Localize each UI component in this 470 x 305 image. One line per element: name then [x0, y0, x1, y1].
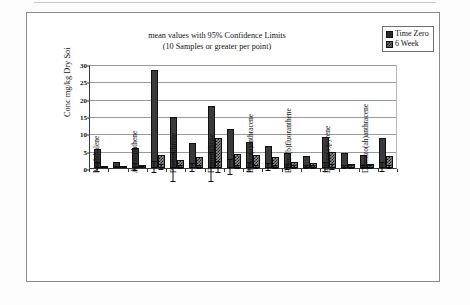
x-tick-mark	[185, 169, 186, 172]
x-tick-label: Naphthalene	[92, 136, 101, 173]
bar-group	[110, 66, 129, 168]
bar-six-week	[386, 156, 393, 168]
error-bar	[123, 166, 124, 168]
bar-time-zero	[265, 146, 272, 168]
y-tick-label: 20	[80, 97, 87, 105]
y-tick-label: 15	[80, 114, 87, 122]
legend-swatch-checkered-square-icon	[386, 41, 393, 48]
bar-group	[148, 66, 167, 168]
y-tick-label: 10	[80, 131, 87, 139]
x-tick-label: Benzo(b)fluoranthene	[284, 108, 293, 173]
x-tick-mark	[378, 169, 379, 172]
bar-time-zero	[227, 129, 234, 168]
error-bar	[142, 166, 143, 168]
legend-label-6-week: 6 Week	[395, 39, 419, 49]
bar-time-zero	[113, 162, 120, 168]
bar-six-week	[158, 155, 165, 168]
bar-six-week	[120, 166, 127, 168]
legend-swatch-solid-dark-square-icon	[386, 31, 393, 38]
y-tick-label: 25	[80, 79, 87, 87]
x-tick-mark	[339, 169, 340, 172]
bar-group	[338, 66, 357, 168]
x-tick-mark	[359, 169, 360, 172]
bar-six-week	[310, 163, 317, 168]
chart-outer-frame: mean values with 95% Confidence Limits (…	[26, 12, 440, 282]
y-tick-label: 5	[84, 149, 88, 157]
x-tick-label: Fluoranthene	[207, 134, 216, 173]
x-tick-mark	[147, 169, 148, 172]
x-tick-label: Dibenzo(ah)anthracene	[361, 104, 370, 173]
chart-title: mean values with 95% Confidence Limits	[97, 30, 337, 41]
y-tick-label: 30	[80, 62, 87, 70]
x-tick-mark	[205, 169, 206, 172]
bar-six-week	[139, 165, 146, 168]
x-tick-mark	[108, 169, 109, 172]
bar-time-zero	[151, 70, 158, 168]
bar-time-zero	[189, 143, 196, 168]
scanned-chart-page: mean values with 95% Confidence Limits (…	[0, 0, 470, 305]
x-tick-mark	[301, 169, 302, 172]
bar-group	[262, 66, 281, 168]
chart-subtitle: (10 Samples or greater per point)	[97, 41, 337, 52]
legend-label-time-zero: Time Zero	[395, 29, 429, 39]
error-bar	[116, 166, 117, 169]
bar-six-week	[101, 166, 108, 168]
legend-item-6-week: 6 Week	[386, 39, 429, 49]
bar-group	[376, 66, 395, 168]
bar-group	[300, 66, 319, 168]
x-tick-label: Benzo(a)pyrene	[323, 126, 332, 173]
chart-title-block: mean values with 95% Confidence Limits (…	[97, 30, 337, 52]
x-tick-label: Acenaphthene	[130, 131, 139, 173]
bar-group	[224, 66, 243, 168]
bar-group	[186, 66, 205, 168]
bar-six-week	[234, 154, 241, 168]
x-tick-mark	[243, 169, 244, 172]
x-tick-mark	[282, 169, 283, 172]
x-tick-mark	[224, 169, 225, 172]
bar-time-zero	[341, 153, 348, 168]
x-tick-mark	[166, 169, 167, 172]
scan-artifact-line	[34, 2, 436, 3]
legend-item-time-zero: Time Zero	[386, 29, 429, 39]
bar-six-week	[196, 157, 203, 168]
bar-time-zero	[303, 156, 310, 168]
bar-time-zero	[379, 138, 386, 168]
y-axis-title: Conc mg/kg Dry Soi	[63, 47, 72, 117]
x-tick-mark	[397, 169, 398, 172]
x-axis-labels: NaphthaleneAcenaphthenePhenanthreneFluor…	[89, 173, 397, 268]
bar-six-week	[348, 164, 355, 168]
bar-six-week	[272, 157, 279, 168]
x-tick-mark	[128, 169, 129, 172]
x-tick-mark	[262, 169, 263, 172]
x-tick-label: Benzo(a)anthracene	[246, 114, 255, 173]
x-tick-mark	[89, 169, 90, 172]
x-tick-label: Phenanthrene	[169, 133, 178, 173]
y-tick-label: 0	[84, 166, 88, 174]
x-tick-mark	[320, 169, 321, 172]
chart-legend: Time Zero 6 Week	[382, 26, 434, 52]
